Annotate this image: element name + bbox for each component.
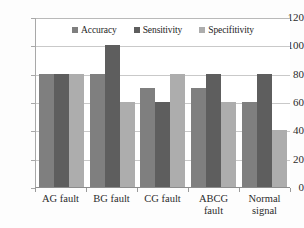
bar-accuracy-normal-signal	[242, 102, 257, 187]
bar-accuracy-bg-fault	[90, 74, 105, 187]
plot-area	[35, 18, 290, 188]
bar-group	[138, 18, 189, 187]
bar-specifitivity-abcg-fault	[221, 102, 236, 187]
x-tick-mark	[290, 188, 291, 192]
bar-group	[87, 18, 138, 187]
bar-series-container	[36, 18, 290, 187]
bar-group	[36, 18, 87, 187]
x-tick-mark	[239, 188, 240, 192]
legend-label: Accuracy	[81, 25, 117, 35]
bar-sensitivity-cg-fault	[155, 102, 170, 187]
x-axis-label-normal-signal: Normalsignal	[239, 193, 290, 216]
bar-accuracy-cg-fault	[140, 88, 155, 187]
bar-group	[188, 18, 239, 187]
x-axis-label-ag-fault: AG fault	[35, 193, 86, 216]
x-tick-mark	[137, 188, 138, 192]
bar-sensitivity-bg-fault	[105, 45, 120, 187]
legend-label: Sensitivity	[143, 25, 183, 35]
bar-group	[239, 18, 290, 187]
x-axis-label-bg-fault: BG fault	[86, 193, 137, 216]
x-tick-mark	[188, 188, 189, 192]
x-axis-labels: AG faultBG faultCG faultABCG faultNormal…	[35, 193, 290, 216]
bar-specifitivity-normal-signal	[272, 130, 287, 187]
bar-accuracy-ag-fault	[39, 74, 54, 187]
bar-specifitivity-bg-fault	[120, 102, 135, 187]
bar-sensitivity-normal-signal	[257, 74, 272, 187]
legend-label: Specifitivity	[208, 25, 254, 35]
x-tick-mark	[86, 188, 87, 192]
legend-entry-specifitivity: Specifitivity	[199, 25, 254, 35]
bar-chart: 120100806040200 AccuracySensitivitySpeci…	[0, 0, 304, 228]
legend-swatch-icon	[199, 27, 205, 33]
bar-sensitivity-ag-fault	[54, 74, 69, 187]
x-axis-label-abcg-fault: ABCG fault	[188, 193, 239, 216]
bar-specifitivity-ag-fault	[69, 74, 84, 187]
legend-swatch-icon	[134, 27, 140, 33]
chart-legend: AccuracySensitivitySpecifitivity	[36, 22, 290, 37]
bar-accuracy-abcg-fault	[191, 88, 206, 187]
bar-sensitivity-abcg-fault	[206, 74, 221, 187]
legend-entry-accuracy: Accuracy	[72, 25, 117, 35]
bar-specifitivity-cg-fault	[170, 74, 185, 187]
x-tick-mark	[35, 188, 36, 192]
legend-entry-sensitivity: Sensitivity	[134, 25, 183, 35]
legend-swatch-icon	[72, 27, 78, 33]
x-axis-label-cg-fault: CG fault	[137, 193, 188, 216]
